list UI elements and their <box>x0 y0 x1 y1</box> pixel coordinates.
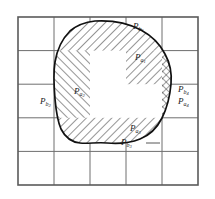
figure-canvas <box>0 0 215 199</box>
figure-container: Pb1 Pa1 Pa2 Pb2 Pb4 Pa4 Pa3 Pb3 <box>0 0 215 199</box>
hatch-band-bottom <box>0 118 215 188</box>
hatch-band-top <box>0 0 215 51</box>
hatch-band-right-cross <box>162 20 215 145</box>
hatch-band-upper-right <box>126 51 162 85</box>
